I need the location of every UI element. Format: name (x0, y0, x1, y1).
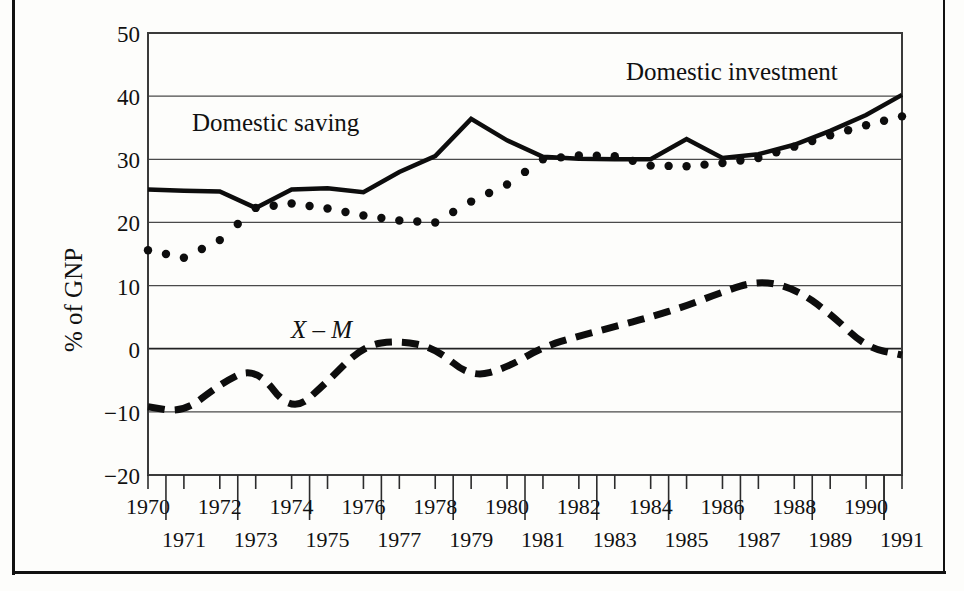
investment-dot (503, 180, 511, 188)
investment-dot (485, 189, 493, 197)
x-tick-label: 1980 (485, 494, 529, 519)
x-axis-tick-labels-row-odd: 1971197319751977197919811983198519871989… (162, 527, 924, 552)
line-chart: % of GNP 50403020100−10−20 1970197219741… (0, 0, 964, 591)
investment-dot (449, 208, 457, 216)
investment-dot (198, 245, 206, 253)
annotation-domestic-investment: Domestic investment (626, 58, 838, 85)
y-axis-tick-labels: 50403020100−10−20 (104, 22, 140, 489)
investment-dot (216, 236, 224, 244)
investment-dot (898, 112, 906, 120)
investment-dot (234, 220, 242, 228)
x-tick-label: 1985 (665, 527, 709, 552)
x-tick-label: 1978 (413, 494, 457, 519)
x-tick-label: 1988 (772, 494, 816, 519)
investment-dot (395, 216, 403, 224)
investment-dot (144, 246, 152, 254)
investment-dot (377, 214, 385, 222)
investment-dot (664, 162, 672, 170)
investment-dot (521, 168, 529, 176)
annotation-net-exports: X – M (290, 316, 353, 343)
x-tick-label: 1971 (162, 527, 206, 552)
x-tick-label: 1986 (700, 494, 744, 519)
investment-dot (305, 202, 313, 210)
x-tick-label: 1990 (844, 494, 888, 519)
x-tick-label: 1975 (306, 527, 350, 552)
y-tick-label: 0 (129, 338, 141, 363)
gridlines (148, 96, 902, 412)
y-axis-title: % of GNP (60, 248, 87, 352)
investment-dot (162, 250, 170, 258)
x-tick-label: 1991 (880, 527, 924, 552)
plot-frame (148, 33, 902, 475)
x-tick-label: 1979 (449, 527, 493, 552)
investment-dot (287, 199, 295, 207)
investment-dot (844, 126, 852, 134)
y-tick-label: 30 (117, 148, 140, 173)
y-tick-label: 40 (117, 85, 140, 110)
investment-dot (880, 117, 888, 125)
investment-dot (682, 162, 690, 170)
x-tick-label: 1973 (234, 527, 278, 552)
investment-dot (700, 160, 708, 168)
y-tick-label: 10 (117, 275, 140, 300)
x-tick-label: 1970 (126, 494, 170, 519)
x-tick-label: 1974 (270, 494, 314, 519)
investment-dot (323, 204, 331, 212)
investment-dot (180, 254, 188, 262)
x-tick-label: 1976 (341, 494, 385, 519)
investment-dot (341, 208, 349, 216)
x-tick-label: 1984 (629, 494, 673, 519)
y-tick-label: −20 (104, 464, 140, 489)
investment-dot (646, 161, 654, 169)
annotation-domestic-saving: Domestic saving (192, 109, 360, 136)
figure-page: % of GNP 50403020100−10−20 1970197219741… (0, 0, 964, 591)
x-axis-tick-labels-row-even: 1970197219741976197819801982198419861988… (126, 494, 888, 519)
y-tick-label: 50 (117, 22, 140, 47)
x-tick-label: 1972 (198, 494, 242, 519)
investment-dot (431, 218, 439, 226)
investment-dot (862, 121, 870, 129)
y-tick-label: 20 (117, 211, 140, 236)
investment-dot (359, 211, 367, 219)
x-tick-label: 1987 (736, 527, 780, 552)
y-tick-label: −10 (104, 401, 140, 426)
series-net-exports (148, 283, 902, 410)
x-tick-label: 1977 (377, 527, 421, 552)
x-tick-label: 1982 (557, 494, 601, 519)
investment-dot (413, 217, 421, 225)
x-tick-label: 1983 (593, 527, 637, 552)
investment-dot (467, 197, 475, 205)
x-tick-label: 1981 (521, 527, 565, 552)
x-tick-label: 1989 (808, 527, 852, 552)
